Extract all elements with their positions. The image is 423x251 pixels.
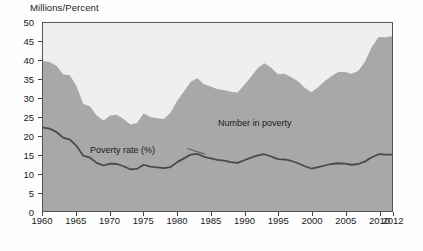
x-tick-mark-2012 (393, 212, 394, 216)
x-tick-mark-2010 (380, 212, 381, 216)
x-tick-mark-2000 (312, 212, 313, 216)
y-axis-title: Millions/Percent (30, 2, 99, 13)
x-tick-mark-1965 (76, 212, 77, 216)
x-tick-mark-1960 (42, 212, 43, 216)
x-tick-1990: 1990 (234, 215, 255, 226)
chart-svg (43, 23, 392, 211)
x-tick-1970: 1970 (99, 215, 120, 226)
x-tick-1960: 1960 (31, 215, 52, 226)
y-tick-40: 40 (8, 55, 34, 66)
x-tick-mark-1985 (211, 212, 212, 216)
chart-container: Millions/Percent 05101520253035404550 19… (0, 0, 423, 251)
y-tick-45: 45 (8, 36, 34, 47)
x-tick-2000: 2000 (301, 215, 322, 226)
y-tick-0: 0 (8, 207, 34, 218)
x-tick-1975: 1975 (133, 215, 154, 226)
x-tick-1980: 1980 (166, 215, 187, 226)
y-tick-30: 30 (8, 93, 34, 104)
plot-area (42, 22, 393, 212)
x-tick-mark-2005 (346, 212, 347, 216)
y-tick-20: 20 (8, 131, 34, 142)
y-tick-10: 10 (8, 169, 34, 180)
y-tick-35: 35 (8, 74, 34, 85)
x-tick-mark-1980 (177, 212, 178, 216)
x-tick-2005: 2005 (335, 215, 356, 226)
number-in-poverty-label: Number in poverty (218, 118, 292, 128)
x-tick-mark-1975 (143, 212, 144, 216)
y-tick-5: 5 (8, 188, 34, 199)
x-tick-1985: 1985 (200, 215, 221, 226)
y-tick-25: 25 (8, 112, 34, 123)
x-tick-mark-1990 (245, 212, 246, 216)
x-tick-1995: 1995 (268, 215, 289, 226)
x-tick-1965: 1965 (65, 215, 86, 226)
x-tick-2012: 2012 (382, 215, 403, 226)
x-tick-mark-1995 (278, 212, 279, 216)
y-tick-50: 50 (8, 17, 34, 28)
x-tick-mark-1970 (110, 212, 111, 216)
poverty-rate-label: Poverty rate (%) (90, 145, 155, 155)
y-tick-15: 15 (8, 150, 34, 161)
